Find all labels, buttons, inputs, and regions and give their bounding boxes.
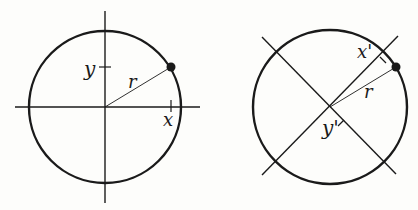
label-y: y: [83, 57, 96, 81]
diagram-canvas: y r x x' r y': [0, 0, 418, 210]
label-r: r: [128, 71, 138, 92]
x-prime-axis: [262, 36, 398, 175]
radius-line: [330, 67, 396, 107]
point-marker: [392, 63, 401, 72]
y-prime-tick: [338, 120, 344, 126]
figure-standard-axes: y r x: [15, 11, 200, 203]
y-prime-axis: [262, 37, 396, 174]
label-x: x: [163, 109, 173, 130]
label-r: r: [364, 81, 374, 102]
radius-line: [105, 67, 171, 107]
x-prime-tick: [380, 57, 386, 63]
label-y-prime: y': [321, 116, 339, 140]
label-x-prime: x': [357, 41, 372, 62]
point-marker: [167, 63, 176, 72]
figure-rotated-axes: x' r y': [253, 30, 407, 184]
